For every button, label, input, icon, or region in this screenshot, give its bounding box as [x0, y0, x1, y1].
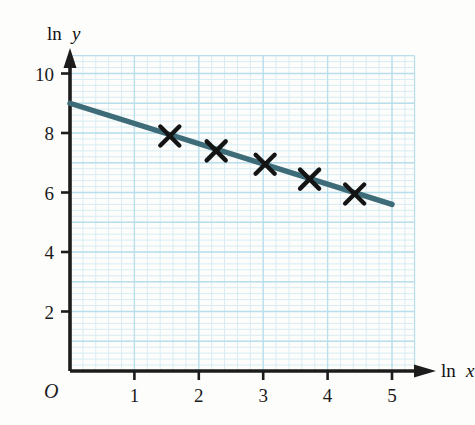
x-axis-tick-label: 5 — [387, 385, 397, 406]
chart-container: 246810 12345 ln y ln x O — [0, 0, 475, 425]
x-axis-label-variable: x — [465, 360, 475, 381]
y-axis-label-prefix: ln — [47, 23, 62, 44]
y-axis-tick-label: 8 — [45, 123, 55, 144]
x-axis-tick-label: 2 — [194, 385, 204, 406]
x-axis-tick-label: 3 — [258, 385, 268, 406]
origin-label: O — [44, 380, 58, 402]
y-axis-tick-label: 4 — [45, 242, 55, 263]
x-axis-label-prefix: ln — [441, 360, 456, 381]
line-graph-with-plotted-points: 246810 12345 ln y ln x O — [0, 0, 475, 425]
x-axis-tick-label: 1 — [130, 385, 140, 406]
y-axis-tick-label: 10 — [35, 64, 54, 85]
x-axis-tick-label: 4 — [323, 385, 333, 406]
y-axis-label-variable: y — [70, 23, 81, 44]
y-axis-tick-label: 6 — [45, 183, 55, 204]
y-axis-tick-label: 2 — [45, 302, 55, 323]
